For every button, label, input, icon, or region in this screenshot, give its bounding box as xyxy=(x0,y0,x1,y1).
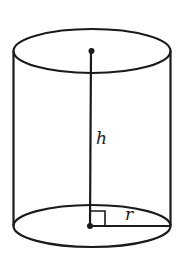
height-line xyxy=(90,51,91,226)
top-center-dot xyxy=(89,48,95,54)
cylinder-diagram: h r xyxy=(0,0,179,264)
right-angle-marker xyxy=(90,211,105,226)
height-label: h xyxy=(96,128,107,148)
bottom-center-dot xyxy=(87,223,93,229)
radius-label: r xyxy=(125,204,134,224)
